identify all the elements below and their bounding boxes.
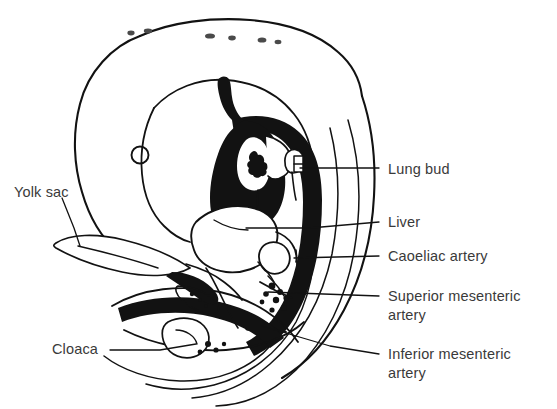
label-superior-mesenteric-artery: Superior mesenteric artery xyxy=(388,287,521,324)
label-yolk-sac: Yolk sac xyxy=(14,183,69,202)
gut-loop xyxy=(259,242,290,274)
label-inferior-mesenteric-artery: Inferior mesenteric artery xyxy=(388,345,511,382)
label-cloaca: Cloaca xyxy=(52,340,98,359)
label-liver: Liver xyxy=(388,213,420,232)
label-lung-bud: Lung bud xyxy=(388,160,450,179)
label-coeliac-artery: Caoeliac artery xyxy=(388,247,488,266)
embryo-diagram-figure: Lung bud Liver Caoeliac artery Superior … xyxy=(0,0,557,409)
